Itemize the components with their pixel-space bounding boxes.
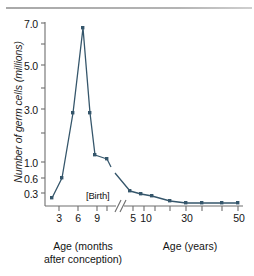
x-axis-label-months-line2: after conception) [44, 253, 122, 265]
x-tick-label-3-months: 3 [52, 212, 66, 224]
data-point [236, 201, 239, 204]
x-tick-label-10-years: 10 [138, 212, 154, 224]
x-axis-ticks-months [59, 206, 107, 211]
data-point [200, 201, 203, 204]
x-axis-label-months-line1: Age (months [53, 240, 113, 252]
data-point [93, 153, 96, 156]
plot-area [0, 0, 254, 276]
birth-annotation: [Birth] [86, 190, 109, 201]
x-axis-ticks-years [133, 206, 238, 211]
data-point [184, 201, 187, 204]
figure-canvas: Number of germ cells (millions) 7.0 5.0 … [0, 0, 254, 276]
data-point [220, 201, 223, 204]
data-point [88, 111, 91, 114]
data-point [105, 157, 108, 160]
x-axis-label-years: Age (years) [140, 240, 240, 253]
data-point [50, 196, 53, 199]
data-point [139, 192, 142, 195]
data-point [128, 189, 131, 192]
x-tick-label-9-months: 9 [90, 212, 104, 224]
data-point-markers [50, 26, 239, 204]
x-tick-label-30-years: 30 [179, 212, 195, 224]
data-point [150, 194, 153, 197]
x-axis-label-months: Age (months after conception) [28, 240, 138, 266]
data-point [168, 199, 171, 202]
data-point [60, 176, 63, 179]
x-tick-label-6-months: 6 [71, 212, 85, 224]
data-point [81, 26, 84, 29]
data-point [71, 111, 74, 114]
data-line-postnatal [115, 173, 238, 203]
data-line-prenatal [52, 28, 107, 198]
x-tick-label-50-years: 50 [231, 212, 247, 224]
y-axis-ticks [41, 23, 45, 193]
